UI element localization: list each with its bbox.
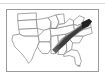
top-divider-rule: [0, 3, 105, 4]
state-louisiana: [37, 42, 51, 54]
state-texas: [12, 34, 39, 63]
map-svg: [7, 10, 98, 71]
corner-tick-mark: [77, 65, 80, 66]
state-kansas: [18, 20, 38, 30]
state-arkansas: [38, 28, 51, 42]
map-frame: [6, 9, 99, 72]
figure-container: [0, 0, 105, 78]
state-outlines: [12, 13, 92, 66]
